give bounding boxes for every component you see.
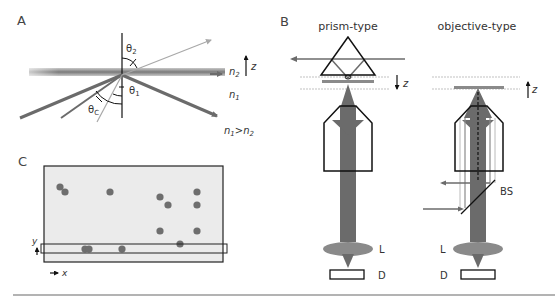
detector (461, 270, 495, 279)
detector-label: D (440, 270, 448, 281)
z-axis-label: z (402, 78, 409, 89)
fluorescent-spot (193, 188, 200, 195)
thetac-arc (96, 91, 122, 104)
n2-label: n2 (229, 66, 240, 79)
n1-label: n1 (229, 89, 240, 102)
theta1-label: θ1 (129, 85, 140, 98)
lens-label: L (440, 244, 446, 255)
z-axis-label: z (250, 61, 257, 72)
fluorescent-spot (85, 245, 92, 252)
fluorescent-spot (106, 188, 113, 195)
theta1-arc (113, 94, 122, 96)
refractive-condition: n1>n2 (224, 125, 255, 138)
detector-label: D (378, 270, 386, 281)
y-axis-label: y (31, 236, 38, 246)
tube-lens (453, 242, 503, 256)
theta2-arc (122, 58, 137, 68)
objective-type-title: objective-type (438, 20, 517, 33)
prism-type-title: prism-type (318, 20, 378, 33)
beamsplitter-label: BS (500, 186, 513, 197)
panel-b: B prism-type objective-type z (280, 14, 538, 281)
prism-type-setup: z L D (290, 37, 409, 281)
z-axis-label: z (531, 84, 538, 95)
panel-b-label: B (280, 14, 289, 29)
panel-a: A θ2 θ1 θC n2 n1 n1>n2 z (17, 13, 257, 138)
incident-beam-subcritical (97, 75, 122, 122)
tube-lens (323, 242, 373, 256)
fluorescent-spot (118, 245, 125, 252)
tirf-figure: A θ2 θ1 θC n2 n1 n1>n2 z B prism-typ (0, 0, 555, 297)
panel-c: C y x (18, 154, 227, 278)
prism (321, 37, 375, 75)
image-field (44, 166, 223, 262)
x-axis-label: x (61, 268, 68, 278)
coverslip (454, 86, 504, 89)
coverslip (322, 80, 374, 83)
fluorescent-spot (164, 201, 171, 208)
lens-label: L (379, 244, 385, 255)
fluorescent-spot (61, 188, 68, 195)
detector (330, 270, 364, 279)
thetac-label: θC (88, 104, 99, 117)
fluorescent-spot (156, 227, 163, 234)
fluorescent-spot (193, 201, 200, 208)
theta2-label: θ2 (126, 43, 137, 56)
fluorescent-spot (156, 193, 163, 200)
panel-c-label: C (18, 154, 27, 169)
objective-type-setup: z BS L D (423, 77, 538, 281)
panel-a-label: A (17, 13, 26, 28)
fluorescent-spot (193, 227, 200, 234)
